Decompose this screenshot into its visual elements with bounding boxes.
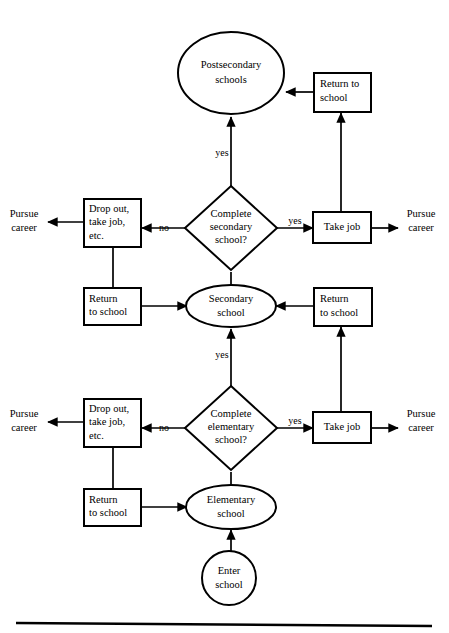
label-pursue-career-secondary-left: Pursue career bbox=[10, 208, 39, 233]
node-complete-elementary-decision[interactable]: Complete elementary school? bbox=[185, 386, 277, 470]
drop-out-elementary-label-line3: etc. bbox=[89, 430, 104, 441]
return-to-school-elementary-left-line1: Return bbox=[89, 494, 118, 505]
label-pursue-career-elementary-right: Pursue career bbox=[407, 408, 436, 433]
take-job-elementary-label: Take job bbox=[324, 421, 360, 432]
pursue-career-elementary-left-line2: career bbox=[11, 422, 37, 433]
node-return-to-school-secondary-right[interactable]: Return to school bbox=[314, 288, 372, 326]
flowchart-canvas: Postsecondary schools Return to school C… bbox=[0, 0, 449, 633]
edge-label-secondary-yes-right: yes bbox=[288, 215, 301, 226]
node-elementary-school[interactable]: Elementary school bbox=[186, 485, 276, 529]
node-drop-out-secondary[interactable]: Drop out, take job, etc. bbox=[84, 199, 141, 247]
node-take-job-secondary[interactable]: Take job bbox=[313, 212, 371, 243]
pursue-career-secondary-right-line2: career bbox=[408, 222, 434, 233]
node-secondary-school[interactable]: Secondary school bbox=[186, 285, 276, 327]
complete-secondary-label-line1: Complete bbox=[211, 208, 252, 219]
enter-school-label-line2: school bbox=[215, 579, 242, 590]
complete-elementary-label-line2: elementary bbox=[208, 421, 255, 432]
pursue-career-elementary-right-line1: Pursue bbox=[407, 408, 436, 419]
take-job-secondary-label: Take job bbox=[324, 221, 360, 232]
node-return-to-school-secondary-left[interactable]: Return to school bbox=[84, 288, 141, 325]
return-to-school-secondary-right-line1: Return bbox=[320, 293, 349, 304]
return-to-school-secondary-left-line2: to school bbox=[89, 306, 127, 317]
edge-label-secondary-no-left: no bbox=[159, 222, 169, 233]
complete-elementary-label-line1: Complete bbox=[211, 408, 252, 419]
postsecondary-schools-ellipse bbox=[178, 32, 284, 114]
complete-elementary-label-line3: school? bbox=[215, 434, 247, 445]
edge-label-secondary-yes-up: yes bbox=[215, 147, 228, 158]
enter-school-circle bbox=[202, 551, 256, 605]
flowchart-root: Postsecondary schools Return to school C… bbox=[0, 0, 449, 633]
return-to-school-secondary-left-line1: Return bbox=[89, 293, 118, 304]
secondary-school-label-line1: Secondary bbox=[209, 293, 254, 304]
complete-secondary-label-line3: school? bbox=[215, 234, 247, 245]
pursue-career-elementary-right-line2: career bbox=[408, 422, 434, 433]
label-pursue-career-secondary-right: Pursue career bbox=[407, 208, 436, 233]
node-return-to-school-elementary-left[interactable]: Return to school bbox=[84, 489, 141, 526]
enter-school-label-line1: Enter bbox=[218, 565, 241, 576]
drop-out-elementary-label-line2: take job, bbox=[89, 416, 125, 427]
edge-label-elementary-yes-up: yes bbox=[215, 349, 228, 360]
secondary-school-label-line2: school bbox=[217, 307, 244, 318]
elementary-school-ellipse bbox=[186, 485, 276, 529]
pursue-career-secondary-left-line1: Pursue bbox=[10, 208, 39, 219]
secondary-school-ellipse bbox=[186, 285, 276, 327]
return-to-school-top-label-line2: school bbox=[320, 92, 347, 103]
edge-label-elementary-yes-right: yes bbox=[288, 415, 301, 426]
drop-out-elementary-label-line1: Drop out, bbox=[89, 403, 129, 414]
node-return-to-school-top[interactable]: Return to school bbox=[314, 73, 371, 112]
complete-secondary-label-line2: secondary bbox=[210, 221, 253, 232]
node-enter-school[interactable]: Enter school bbox=[202, 551, 256, 605]
postsecondary-schools-label-line2: schools bbox=[215, 74, 247, 85]
pursue-career-secondary-right-line1: Pursue bbox=[407, 208, 436, 219]
node-take-job-elementary[interactable]: Take job bbox=[313, 412, 371, 443]
drop-out-secondary-label-line3: etc. bbox=[89, 230, 104, 241]
node-drop-out-elementary[interactable]: Drop out, take job, etc. bbox=[84, 399, 141, 447]
return-to-school-elementary-left-line2: to school bbox=[89, 507, 127, 518]
edge-label-elementary-no-left: no bbox=[159, 422, 169, 433]
drop-out-secondary-label-line2: take job, bbox=[89, 216, 125, 227]
postsecondary-schools-label-line1: Postsecondary bbox=[201, 59, 262, 70]
return-to-school-secondary-right-line2: to school bbox=[320, 307, 358, 318]
node-complete-secondary-decision[interactable]: Complete secondary school? bbox=[185, 186, 277, 270]
label-pursue-career-elementary-left: Pursue career bbox=[10, 408, 39, 433]
footer-divider-rule bbox=[16, 623, 432, 626]
elementary-school-label-line1: Elementary bbox=[207, 494, 256, 505]
return-to-school-top-label-line1: Return to bbox=[320, 78, 359, 89]
node-postsecondary-schools[interactable]: Postsecondary schools bbox=[178, 32, 284, 114]
pursue-career-secondary-left-line2: career bbox=[11, 222, 37, 233]
pursue-career-elementary-left-line1: Pursue bbox=[10, 408, 39, 419]
elementary-school-label-line2: school bbox=[217, 508, 244, 519]
drop-out-secondary-label-line1: Drop out, bbox=[89, 203, 129, 214]
